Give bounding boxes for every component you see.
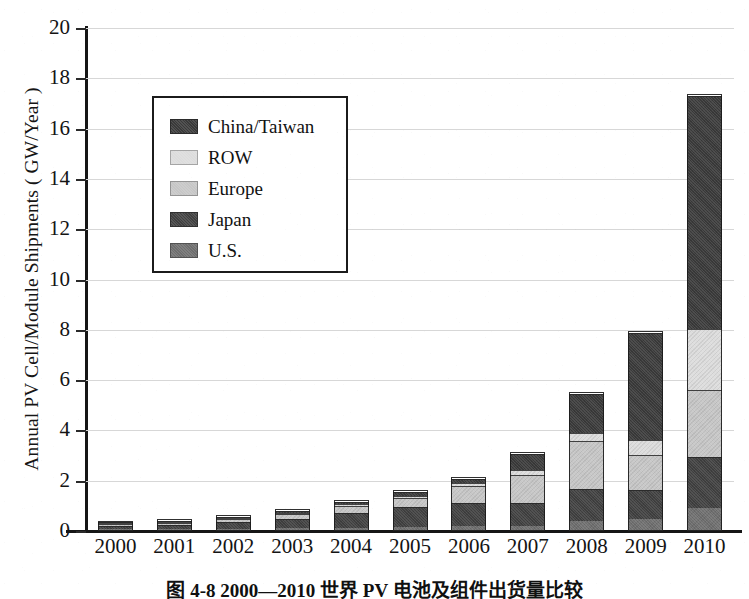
bar-segment[interactable] xyxy=(157,521,192,522)
bar-segment[interactable] xyxy=(393,507,428,528)
bar-segment[interactable] xyxy=(216,518,251,519)
bar-segment[interactable] xyxy=(157,529,192,531)
bar-segment[interactable] xyxy=(687,390,722,457)
chart-legend: China/TaiwanROWEuropeJapanU.S. xyxy=(152,96,348,273)
bar-segment[interactable] xyxy=(393,492,428,496)
y-axis-tick-label: 4 xyxy=(22,419,70,440)
bar-segment[interactable] xyxy=(451,479,486,483)
bar-group[interactable] xyxy=(510,454,545,531)
legend-item[interactable]: ROW xyxy=(170,142,346,172)
bar-segment[interactable] xyxy=(393,498,428,507)
bar-group[interactable] xyxy=(334,502,369,531)
gridline xyxy=(86,531,734,532)
x-axis-tick-label: 2005 xyxy=(378,536,442,557)
bar-group[interactable] xyxy=(569,394,604,531)
x-axis-tick-label: 2007 xyxy=(496,536,560,557)
bar-segment[interactable] xyxy=(98,524,133,526)
bar-segment[interactable] xyxy=(569,441,604,489)
x-axis-tick-label: 2006 xyxy=(437,536,501,557)
bar-segment[interactable] xyxy=(687,457,722,509)
bar-segment[interactable] xyxy=(216,522,251,528)
x-axis-tick-label: 2001 xyxy=(142,536,206,557)
bar-segment[interactable] xyxy=(275,511,310,513)
bar-segment[interactable] xyxy=(569,489,604,520)
bar-group[interactable] xyxy=(687,96,722,531)
bar-segment[interactable] xyxy=(275,519,310,528)
y-axis-tick xyxy=(76,380,86,382)
legend-item[interactable]: Europe xyxy=(170,173,346,203)
legend-item[interactable]: Japan xyxy=(170,204,346,234)
bar-segment[interactable] xyxy=(451,483,486,486)
y-axis-tick xyxy=(76,531,86,533)
x-axis-tick-label: 2000 xyxy=(83,536,147,557)
legend-item-label: Europe xyxy=(208,179,263,198)
x-axis-tick-label: 2002 xyxy=(201,536,265,557)
bar-segment[interactable] xyxy=(687,96,722,329)
bar-segment[interactable] xyxy=(98,529,133,531)
bar-segment[interactable] xyxy=(451,503,486,526)
bar-group[interactable] xyxy=(98,522,133,531)
y-axis-tick xyxy=(76,229,86,231)
bar-segment[interactable] xyxy=(98,522,133,523)
y-axis-tick-label: 10 xyxy=(22,269,70,290)
bar-segment[interactable] xyxy=(157,523,192,525)
bar-segment[interactable] xyxy=(569,433,604,442)
legend-swatch-icon xyxy=(170,243,198,258)
bar-segment[interactable] xyxy=(687,329,722,391)
bar-segment[interactable] xyxy=(628,490,663,519)
bar-group[interactable] xyxy=(393,492,428,531)
y-axis-tick xyxy=(76,129,86,131)
x-axis-tick-label: 2008 xyxy=(555,536,619,557)
bar-segment[interactable] xyxy=(157,522,192,523)
legend-swatch-icon xyxy=(170,181,198,196)
bar-segment[interactable] xyxy=(451,486,486,503)
legend-swatch-icon xyxy=(170,150,198,165)
bar-segment[interactable] xyxy=(334,513,369,528)
bar-segment[interactable] xyxy=(510,503,545,526)
bar-segment[interactable] xyxy=(216,517,251,518)
y-axis-tick xyxy=(76,330,86,332)
y-axis-tick-label: 6 xyxy=(22,369,70,390)
bar-segment[interactable] xyxy=(334,504,369,506)
y-axis-tick xyxy=(76,179,86,181)
bar-segment[interactable] xyxy=(510,470,545,475)
bar-segment[interactable] xyxy=(628,455,663,490)
bar-group[interactable] xyxy=(628,333,663,531)
bar-segment[interactable] xyxy=(451,526,486,531)
bar-segment[interactable] xyxy=(157,525,192,529)
bar-segment[interactable] xyxy=(628,519,663,531)
bar-segment[interactable] xyxy=(334,502,369,505)
bar-segment[interactable] xyxy=(569,394,604,433)
bar-segment[interactable] xyxy=(628,333,663,440)
bar-segment[interactable] xyxy=(334,528,369,531)
bar-segment[interactable] xyxy=(275,513,310,515)
bar-segment[interactable] xyxy=(334,506,369,513)
x-axis-tick-label: 2010 xyxy=(673,536,737,557)
y-axis-tick xyxy=(76,430,86,432)
bar-segment[interactable] xyxy=(628,440,663,455)
y-axis-tick-label: 2 xyxy=(22,470,70,491)
bar-segment[interactable] xyxy=(275,514,310,519)
bar-group[interactable] xyxy=(157,521,192,531)
bar-group[interactable] xyxy=(275,511,310,531)
bar-segment[interactable] xyxy=(216,519,251,522)
bar-segment[interactable] xyxy=(510,526,545,531)
bar-group[interactable] xyxy=(451,479,486,531)
legend-item[interactable]: China/Taiwan xyxy=(170,111,346,141)
legend-item[interactable]: U.S. xyxy=(170,235,346,265)
bar-segment[interactable] xyxy=(510,454,545,470)
figure-container: Annual PV Cell/Module Shipments ( GW/Yea… xyxy=(0,0,749,599)
y-axis-tick-label: 16 xyxy=(22,118,70,139)
bar-segment[interactable] xyxy=(687,508,722,531)
y-axis-tick-label: 8 xyxy=(22,319,70,340)
bar-segment[interactable] xyxy=(393,527,428,531)
bar-segment[interactable] xyxy=(98,523,133,524)
bar-segment[interactable] xyxy=(275,528,310,531)
bar-segment[interactable] xyxy=(393,496,428,498)
bar-group[interactable] xyxy=(216,517,251,531)
y-axis-tick xyxy=(76,481,86,483)
bar-segment[interactable] xyxy=(98,526,133,529)
bar-segment[interactable] xyxy=(510,475,545,503)
bar-segment[interactable] xyxy=(216,529,251,532)
bar-segment[interactable] xyxy=(569,521,604,531)
